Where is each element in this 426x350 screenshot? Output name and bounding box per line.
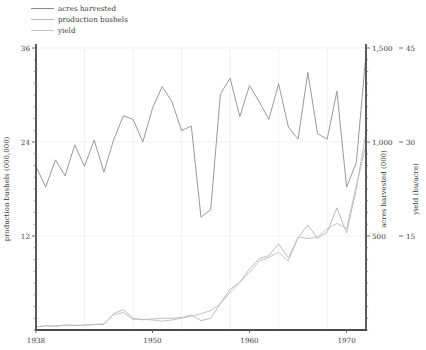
axis-ticks [32, 48, 403, 333]
tick-label-acres: 1,000 [372, 138, 393, 147]
legend-label-1: production bushels [58, 15, 128, 24]
tick-label-production: 36 [21, 44, 31, 53]
axis-title-acres: acres harvested (000) [380, 150, 388, 228]
tick-label-acres: 1,500 [372, 44, 393, 53]
tick-label-x: 1970 [337, 336, 356, 345]
legend-label-2: yield [57, 26, 76, 35]
chart-container: 1224365001,0001,500153045193819501960197… [0, 0, 426, 350]
series-line-production-bushels [36, 133, 366, 327]
tick-label-production: 12 [21, 232, 30, 241]
series-line-acres-harvested [36, 54, 366, 218]
tick-label-x: 1950 [143, 336, 162, 345]
tick-label-production: 24 [21, 138, 31, 147]
tick-labels: 1224365001,0001,500153045193819501960197… [21, 44, 416, 345]
axis-title-yield: yield (bu/acre) [412, 163, 420, 216]
tick-label-acres: 500 [372, 232, 386, 241]
tick-label-yield: 30 [406, 138, 416, 147]
series-group [36, 54, 366, 327]
tick-label-yield: 45 [406, 44, 416, 53]
axis-title-production: production bushels (000,000) [3, 136, 11, 241]
tick-label-x: 1938 [27, 336, 46, 345]
gridlines [36, 48, 366, 330]
tick-label-x: 1960 [240, 336, 259, 345]
tick-label-yield: 15 [406, 232, 416, 241]
legend: acres harvestedproduction bushelsyield [31, 4, 128, 35]
chart-svg: 1224365001,0001,500153045193819501960197… [0, 0, 426, 350]
legend-label-0: acres harvested [58, 4, 116, 13]
